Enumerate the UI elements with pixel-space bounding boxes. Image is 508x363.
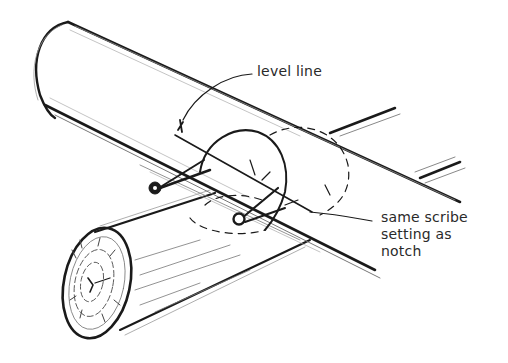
log-scribing-diagram: level line same scribe setting as notch [0, 0, 508, 363]
scribe-label-line-2: setting as [381, 226, 468, 243]
level-line-label: level line [257, 63, 322, 80]
scribe-label-line-3: notch [381, 243, 468, 260]
scribe-label-line-1: same scribe [381, 209, 468, 226]
illustration [0, 0, 508, 363]
scribe-setting-label: same scribe setting as notch [381, 209, 468, 260]
